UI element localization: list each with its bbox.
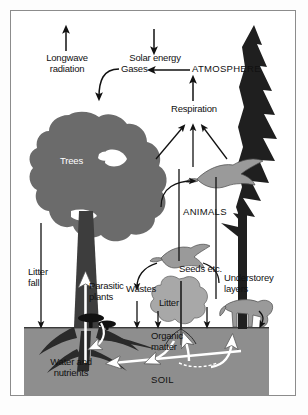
label-understorey-layers: Understorey layers [224, 273, 274, 294]
gases-to-canopy-arrow [99, 69, 119, 97]
label-organic-matter: Organic matter [151, 331, 183, 352]
label-respiration: Respiration [171, 104, 217, 115]
label-longwave-radiation: Longwave radiation [33, 53, 101, 74]
label-parasitic-plants: Parasitic plants [89, 281, 124, 302]
label-solar-energy: Solar energy [119, 53, 191, 64]
broadleaf-tree-canopy [30, 112, 167, 241]
label-litter-fall: Litter fall [28, 267, 48, 288]
label-animals: ANIMALS [183, 207, 227, 218]
label-water-and-nutrients: Water and nutrients [35, 357, 107, 378]
animals-to-respiration-arrow [203, 127, 227, 159]
label-atmosphere: ATMOSPHERE [192, 64, 261, 75]
label-soil: SOIL [151, 375, 174, 386]
label-seeds-etc: Seeds etc. [179, 264, 222, 275]
diagram-frame: Longwave radiation Solar energy Gases AT… [10, 10, 296, 396]
trees-to-respiration-arrow [156, 127, 183, 159]
label-wastes: Wastes [126, 284, 156, 295]
ecosystem-diagram-figure: Longwave radiation Solar energy Gases AT… [0, 0, 308, 415]
soil-surface-line [24, 327, 269, 328]
label-litter: Litter [159, 298, 179, 309]
label-trees: Trees [60, 156, 83, 167]
label-gases: Gases [121, 64, 147, 75]
